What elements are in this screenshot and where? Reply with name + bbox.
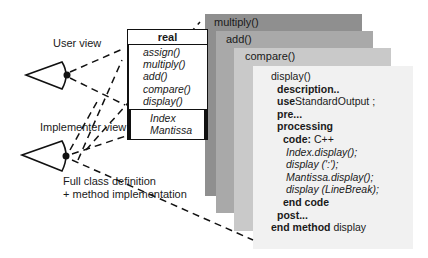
implementer-view-label: Implementer view <box>40 121 126 133</box>
class-methods: assign() multiply() add() compare() disp… <box>128 45 207 109</box>
class-attribute: Mantissa <box>150 124 204 136</box>
class-method: assign() <box>143 46 207 58</box>
class-name: real <box>128 30 207 45</box>
user-view-label: User view <box>53 37 101 49</box>
user-eye-icon <box>26 62 66 89</box>
class-method: display() <box>143 95 207 107</box>
class-attribute: Index <box>150 112 204 124</box>
class-method: multiply() <box>143 58 207 70</box>
class-method: add() <box>143 70 207 82</box>
class-attributes: Index Mantissa <box>128 109 207 139</box>
class-method: compare() <box>143 83 207 95</box>
full-definition-label-2: + method implementation <box>63 188 187 200</box>
full-definition-label-1: Full class definition <box>63 175 156 187</box>
class-box-real: real assign() multiply() add() compare()… <box>127 29 208 140</box>
implementer-eye-icon <box>22 141 66 171</box>
